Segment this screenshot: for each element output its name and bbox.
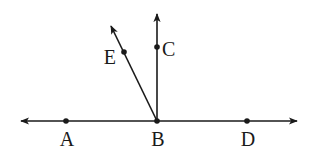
lines-group [21,14,297,121]
geometry-diagram: ABDCE [0,0,314,157]
point-c-label: C [162,38,175,60]
point-a-label: A [60,128,75,150]
point-d-dot [244,118,250,124]
point-a-dot [63,118,69,124]
point-b-label: B [151,128,164,150]
point-c-dot [154,44,160,50]
point-e-label: E [104,46,116,68]
point-b-dot [154,118,160,124]
ray-BE [111,26,157,121]
point-e-dot [121,49,127,55]
point-d-label: D [241,128,255,150]
